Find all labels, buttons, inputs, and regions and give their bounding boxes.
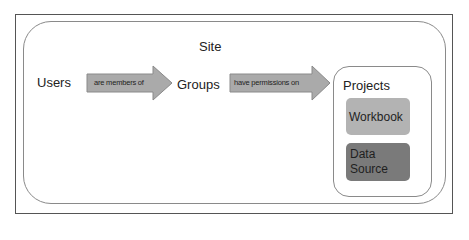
projects-title: Projects	[343, 78, 390, 93]
arrow-are-members-of: are members of	[86, 65, 174, 101]
groups-node: Groups	[177, 78, 220, 91]
data-source-label-line2: Source	[350, 162, 410, 177]
workbook-box: Workbook	[346, 98, 410, 135]
workbook-label: Workbook	[349, 110, 403, 124]
relation-label: have permissions on	[234, 78, 299, 87]
users-node: Users	[37, 76, 71, 89]
site-title: Site	[199, 40, 221, 53]
projects-container: Projects Workbook Data Source	[333, 66, 432, 197]
arrow-have-permissions-on: have permissions on	[229, 65, 332, 101]
relation-label: are members of	[94, 78, 144, 87]
data-source-label-line1: Data	[350, 147, 410, 162]
data-source-box: Data Source	[346, 143, 410, 181]
